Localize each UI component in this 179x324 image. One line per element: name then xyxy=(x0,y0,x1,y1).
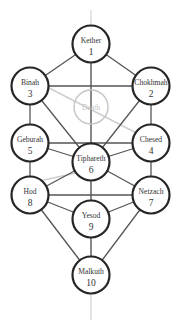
sephira-yesod: Yesod9 xyxy=(73,201,110,238)
sephira-number: 8 xyxy=(28,198,33,208)
sephira-name: Hod xyxy=(23,187,36,196)
sephira-malkuth: Malkuth10 xyxy=(73,257,110,294)
sephira-name: Malkuth xyxy=(78,267,104,276)
sephira-name: Geburah xyxy=(17,135,43,144)
sephira-name: Kether xyxy=(81,36,102,45)
sephira-binah: Binah3 xyxy=(12,68,49,105)
sephira-kether: Kether1 xyxy=(73,26,110,63)
sephira-number: 1 xyxy=(89,47,94,57)
sephira-name: Binah xyxy=(21,78,39,87)
sephira-tiphareth: Tiphareth6 xyxy=(73,144,110,181)
sephira-number: 7 xyxy=(149,198,154,208)
sephira-netzach: Netzach7 xyxy=(133,177,170,214)
sephira-number: 10 xyxy=(86,278,96,288)
sephira-number: 3 xyxy=(28,89,33,99)
sephira-chokhmah: Chokhmah2 xyxy=(133,68,170,105)
sephira-number: 4 xyxy=(149,146,154,156)
tree-of-life-diagram: Kether1Chokhmah2Binah3DaathChesed4Gebura… xyxy=(0,0,179,324)
sephira-name: Chokhmah xyxy=(134,78,168,87)
sephira-name: Netzach xyxy=(139,187,164,196)
sephira-geburah: Geburah5 xyxy=(12,125,49,162)
sephira-hod: Hod8 xyxy=(12,177,49,214)
sephira-number: 2 xyxy=(149,89,154,99)
sephira-number: 9 xyxy=(89,222,94,232)
sephira-name: Daath xyxy=(82,103,100,112)
sephira-chesed: Chesed4 xyxy=(133,125,170,162)
sephira-number: 6 xyxy=(89,165,94,175)
sephira-name: Yesod xyxy=(82,211,101,220)
sephira-number: 5 xyxy=(28,146,33,156)
sephira-name: Chesed xyxy=(140,135,163,144)
sephira-name: Tiphareth xyxy=(76,154,105,163)
